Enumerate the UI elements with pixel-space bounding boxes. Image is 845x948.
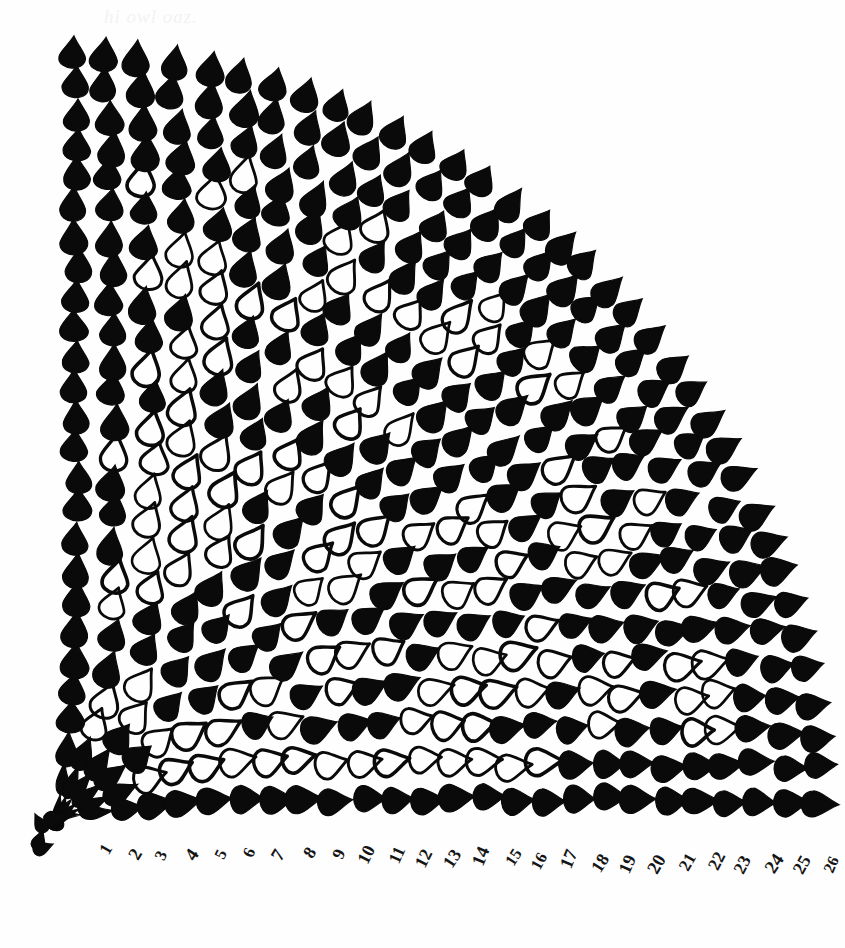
round-number-label: 16 [527, 849, 552, 873]
petal-open [214, 671, 260, 714]
petal-filled [66, 461, 92, 494]
petal-filled [226, 549, 272, 596]
round-number-label: 17 [555, 846, 582, 871]
petal-filled [286, 675, 328, 714]
petal-filled [62, 339, 91, 373]
round-number-label: 20 [642, 851, 669, 878]
petal-filled [681, 517, 721, 554]
petal-filled [738, 748, 775, 776]
petal-filled [705, 489, 746, 527]
petal-filled [262, 326, 300, 369]
petal-filled [62, 127, 92, 162]
petal-open [470, 642, 511, 679]
petal-filled [789, 651, 827, 684]
round-number-label: 5 [210, 846, 231, 862]
petal-filled [61, 521, 90, 556]
petal-filled [405, 126, 444, 168]
petal-filled [239, 484, 279, 528]
petal-filled [572, 575, 615, 612]
round-number-label: 25 [789, 852, 815, 877]
petal-filled [355, 234, 396, 277]
petal-filled [196, 114, 227, 151]
petal-open [196, 237, 233, 278]
petal-filled [364, 705, 405, 742]
petal-open [197, 266, 235, 308]
round-number-label: 18 [587, 850, 613, 876]
round-number-label: 10 [353, 842, 379, 867]
petal-open [201, 710, 247, 750]
petal-filled [229, 378, 270, 424]
round-number-label: 15 [501, 845, 526, 869]
petal-filled [95, 220, 125, 259]
petal-open [437, 292, 481, 338]
petal-open [312, 747, 351, 782]
petal-filled [316, 786, 354, 816]
petal-filled [500, 786, 536, 816]
petal-filled [58, 35, 87, 69]
round-number-label: 22 [703, 848, 729, 873]
petal-symbol-group [43, 35, 839, 831]
petal-filled [487, 711, 529, 745]
petal-open [398, 703, 435, 736]
petal-filled [149, 684, 191, 726]
petal-filled [647, 512, 688, 551]
petal-filled [238, 704, 279, 743]
petal-filled [190, 640, 236, 687]
petal-filled [554, 712, 591, 746]
petal-filled [95, 615, 132, 655]
round-number-label: 7 [266, 845, 289, 864]
round-number-label: 21 [675, 850, 700, 874]
petal-filled [59, 185, 87, 222]
petal-filled [258, 258, 298, 303]
petal-open [673, 683, 712, 717]
petal-filled [61, 551, 91, 590]
petal-filled [385, 602, 430, 644]
petal-open [271, 364, 309, 406]
center-rosette [29, 806, 68, 857]
petal-open [436, 746, 474, 778]
petal-filled [99, 342, 128, 381]
petal-open [477, 673, 521, 711]
petal-filled [420, 601, 463, 641]
petal-filled [772, 586, 812, 620]
petal-filled [713, 612, 753, 646]
petal-filled [298, 380, 340, 425]
petal-open [199, 301, 234, 342]
petal-filled [799, 723, 836, 754]
petal-filled [127, 222, 162, 262]
petal-filled [379, 535, 424, 579]
petal-filled [558, 749, 595, 780]
petal-filled [586, 609, 628, 646]
petal-open [129, 534, 167, 577]
petal-filled [794, 690, 833, 722]
chart-sheet: hi owl oaz. ... 123456789101112131415161… [0, 0, 845, 948]
petal-filled [297, 709, 342, 748]
round-number-label: 2 [123, 845, 146, 864]
petal-filled [94, 186, 126, 223]
petal-open [230, 518, 274, 565]
petal-open [169, 356, 201, 395]
petal-filled [166, 196, 198, 235]
petal-filled [524, 534, 566, 574]
petal-filled [232, 345, 270, 387]
petal-filled [742, 788, 777, 817]
petal-filled [201, 204, 237, 244]
petal-filled [195, 785, 235, 816]
petal-filled [100, 402, 131, 442]
petal-open [330, 401, 371, 443]
petal-filled [452, 604, 496, 645]
petal-open [163, 258, 199, 301]
petal-filled [257, 130, 294, 172]
petal-filled [734, 713, 773, 743]
petal-filled [804, 752, 838, 779]
petal-filled [723, 643, 762, 679]
petal-filled [61, 64, 90, 98]
petal-filled [88, 36, 120, 74]
petal-open [129, 498, 167, 541]
petal-open [323, 564, 369, 609]
petal-open [523, 609, 563, 644]
petal-filled [613, 714, 653, 749]
petal-filled [288, 74, 325, 116]
petal-open [166, 512, 205, 557]
petal-filled [291, 142, 326, 182]
